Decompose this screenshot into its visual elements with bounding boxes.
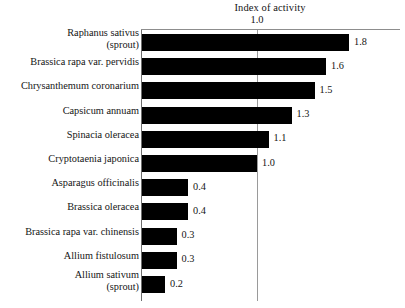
bar-row: Cryptotaenia japonica1.0 bbox=[0, 153, 405, 175]
bar-value-label: 0.3 bbox=[182, 228, 195, 241]
bar bbox=[142, 82, 315, 99]
bar-row: Spinacia oleracea1.1 bbox=[0, 129, 405, 151]
bar bbox=[142, 228, 177, 245]
bar-row: Asparagus officinalis0.4 bbox=[0, 177, 405, 199]
bar bbox=[142, 203, 188, 220]
bar-category-label: Asparagus officinalis bbox=[0, 177, 139, 189]
bar bbox=[142, 252, 177, 269]
bar bbox=[142, 107, 292, 124]
bar-row: Capsicum annuam1.3 bbox=[0, 105, 405, 127]
bar-value-label: 0.3 bbox=[182, 252, 195, 265]
x-axis-tick-label-1: 1.0 bbox=[237, 14, 277, 26]
bar-category-label: Raphanus sativus (sprout) bbox=[0, 27, 139, 50]
bar bbox=[142, 58, 326, 75]
bar-row: Brassica rapa var. chinensis0.3 bbox=[0, 226, 405, 248]
bar-value-label: 0.4 bbox=[193, 180, 206, 193]
bar-category-label: Allium fistulosum bbox=[0, 250, 139, 262]
bar-row: Raphanus sativus (sprout)1.8 bbox=[0, 32, 405, 54]
bar-category-label: Brassica oleracea bbox=[0, 201, 139, 213]
bar-value-label: 1.3 bbox=[297, 107, 310, 120]
bar-value-label: 1.6 bbox=[331, 59, 344, 72]
bar-category-label: Allium sativum (sprout) bbox=[0, 269, 139, 292]
bar-chart: Index of activity 1.0 Raphanus sativus (… bbox=[0, 0, 405, 308]
bar-value-label: 1.5 bbox=[320, 83, 333, 96]
bar-value-label: 1.0 bbox=[262, 156, 275, 169]
plot-area: Raphanus sativus (sprout)1.8Brassica rap… bbox=[0, 32, 405, 300]
bar bbox=[142, 276, 165, 293]
bar-value-label: 0.4 bbox=[193, 204, 206, 217]
bar-value-label: 0.2 bbox=[170, 277, 183, 290]
bar bbox=[142, 34, 349, 51]
bar-category-label: Spinacia oleracea bbox=[0, 129, 139, 141]
bar-category-label: Brassica rapa var. chinensis bbox=[0, 226, 139, 238]
bar-category-label: Capsicum annuam bbox=[0, 105, 139, 117]
top-axis-rule bbox=[141, 29, 400, 30]
bar-value-label: 1.8 bbox=[354, 35, 367, 48]
bar-row: Brassica oleracea0.4 bbox=[0, 201, 405, 223]
bar-category-label: Chrysanthemum coronarium bbox=[0, 80, 139, 92]
bar-value-label: 1.1 bbox=[274, 131, 287, 144]
bar-row: Chrysanthemum coronarium1.5 bbox=[0, 80, 405, 102]
bar-category-label: Cryptotaenia japonica bbox=[0, 153, 139, 165]
bar-row: Brassica rapa var. pervidis1.6 bbox=[0, 56, 405, 78]
bar bbox=[142, 179, 188, 196]
bar bbox=[142, 131, 269, 148]
bar-row: Allium sativum (sprout)0.2 bbox=[0, 274, 405, 296]
bar-category-label: Brassica rapa var. pervidis bbox=[0, 56, 139, 68]
bar bbox=[142, 155, 257, 172]
chart-title: Index of activity bbox=[195, 1, 345, 14]
